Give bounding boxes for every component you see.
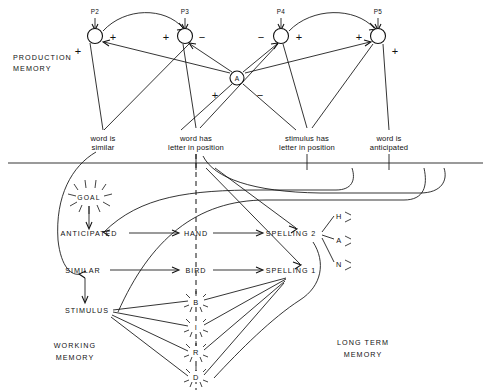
wm-node-bird[interactable]: BIRD xyxy=(186,266,207,275)
sign-p3-left: + xyxy=(163,31,169,43)
production-node-p3[interactable] xyxy=(178,29,193,44)
sign-p4-right: + xyxy=(296,31,302,43)
region-label-working-memory-line1: WORKING xyxy=(54,341,97,350)
production-label-p3: P3 xyxy=(181,8,190,15)
stimulus-letter-r: R xyxy=(193,348,199,357)
link-cond3-to-p4 xyxy=(283,44,307,128)
link-cond3-to-p5 xyxy=(312,44,373,128)
link-r-to-spelling1 xyxy=(204,281,285,350)
diagram-canvas: A P2 P3 P4 P5 + + + − − + + + + − PRODUC… xyxy=(0,0,491,390)
link-i-to-spelling1 xyxy=(204,279,286,325)
link-a-down-right xyxy=(243,84,296,130)
sign-a-plus: + xyxy=(212,89,218,101)
stimulus-letter-i: I xyxy=(195,323,198,332)
condition-1-line2: similar xyxy=(92,143,115,152)
curve-similar-to-condition1 xyxy=(58,152,96,274)
ltm-node-spelling1[interactable]: SPELLING 1 xyxy=(266,266,317,275)
condition-4-line2: anticipated xyxy=(370,143,408,152)
sign-p2-left: + xyxy=(75,45,81,57)
curve-spelling-to-condition2 xyxy=(203,156,445,193)
sign-p5-right: + xyxy=(392,45,398,57)
branch-spelling2-to-a xyxy=(322,235,334,239)
stimulus-letter-d: D xyxy=(193,373,199,382)
link-a-to-p4 xyxy=(243,44,277,72)
region-label-working-memory-line2: MEMORY xyxy=(56,353,95,362)
link-cond1-to-p2 xyxy=(90,43,103,130)
fan-stimulus-to-r xyxy=(112,315,188,351)
goal-label: GOAL xyxy=(77,194,100,201)
wm-node-anticipated[interactable]: ANTICIPATED xyxy=(61,229,118,238)
wm-node-stimulus[interactable]: STIMULUS xyxy=(65,306,109,315)
production-label-p2: P2 xyxy=(91,8,100,15)
link-a-to-p5 xyxy=(245,42,370,73)
spelling2-letter-h: H xyxy=(336,212,342,221)
region-label-long-term-memory-line1: LONG TERM xyxy=(337,338,389,347)
link-a-to-p3 xyxy=(190,44,232,72)
branch-spelling2-to-h xyxy=(322,216,334,232)
wm-node-similar[interactable]: SIMILAR xyxy=(65,266,100,275)
stimulus-letter-b: B xyxy=(193,298,199,307)
link-cond2-to-p3 xyxy=(183,44,196,128)
fan-stimulus-to-i xyxy=(113,312,188,326)
spelling2-letter-n: N xyxy=(336,260,342,269)
letter-a-marks-icon xyxy=(345,236,351,246)
link-b-to-spelling1 xyxy=(204,278,286,300)
branch-spelling2-to-n xyxy=(322,238,334,262)
link-a-down-left xyxy=(181,84,232,130)
spelling2-letter-a: A xyxy=(336,236,342,245)
link-cond4-to-p5 xyxy=(383,44,389,130)
letter-h-marks-icon xyxy=(345,212,351,222)
condition-3-line1: stimulus has xyxy=(285,134,329,143)
condition-1-line1: word is xyxy=(89,134,115,143)
region-label-long-term-memory-line2: MEMORY xyxy=(344,350,383,359)
link-cond1-to-p3 xyxy=(104,44,189,130)
condition-3-line2: letter in position xyxy=(279,143,335,152)
production-label-p5: P5 xyxy=(374,8,383,15)
ltm-node-spelling2[interactable]: SPELLING 2 xyxy=(266,229,317,238)
link-cond2-to-p4 xyxy=(200,44,278,128)
production-node-p2[interactable] xyxy=(88,29,103,44)
condition-2-line1: word has xyxy=(179,134,212,143)
letter-n-marks-icon xyxy=(345,260,351,270)
production-node-p4[interactable] xyxy=(274,29,289,44)
sign-p4-left: − xyxy=(258,31,264,43)
production-label-p4: P4 xyxy=(277,8,286,15)
arc-p4-to-p5 xyxy=(289,13,374,31)
sign-p2-right: + xyxy=(110,31,116,43)
fan-stimulus-to-b xyxy=(113,301,188,310)
line-down-to-spelling1 xyxy=(206,168,300,264)
action-node-label: A xyxy=(235,75,240,82)
region-label-production-memory-line2: MEMORY xyxy=(13,64,52,73)
sign-p5-left: + xyxy=(356,31,362,43)
arc-p2-to-p3 xyxy=(103,13,183,31)
cognitive-architecture-diagram: A P2 P3 P4 P5 + + + − − + + + + − PRODUC… xyxy=(0,0,491,390)
region-label-production-memory-line1: PRODUCTION xyxy=(13,53,72,62)
fan-stimulus-to-d xyxy=(111,317,188,376)
wm-node-hand[interactable]: HAND xyxy=(184,229,208,238)
production-node-p5[interactable] xyxy=(371,29,386,44)
condition-2-line2: letter in position xyxy=(168,143,224,152)
sign-a-minus: − xyxy=(257,89,263,101)
sign-p3-right: − xyxy=(199,31,205,43)
condition-4-line1: word is xyxy=(375,134,401,143)
link-a-to-p2 xyxy=(104,42,230,73)
